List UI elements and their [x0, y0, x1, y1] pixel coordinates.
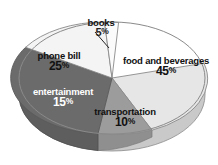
pie-chart-graphic [0, 0, 218, 165]
pie-chart-figure: books 5% food and beverages 45% phone bi… [0, 0, 218, 165]
